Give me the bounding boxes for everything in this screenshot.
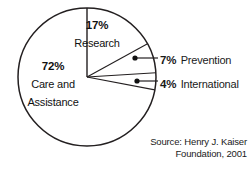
slice-name-research: Research	[74, 37, 119, 49]
slice-percent-international: 4%	[160, 78, 176, 90]
slice-percent-research: 17%	[86, 19, 108, 31]
source-note: Source: Henry J. Kaiser Foundation, 2001	[131, 136, 247, 160]
slice-label-international: 4% International	[160, 75, 239, 91]
marker-dot-international	[134, 78, 139, 83]
slice-name-prevention: Prevention	[181, 54, 232, 66]
slice-percent-care-and-assistance: 72%	[42, 60, 64, 72]
source-note-line1: Source: Henry J. Kaiser	[131, 136, 247, 148]
slice-name-care-and-assistance-line1: Care and	[31, 78, 75, 90]
marker-dot-prevention	[132, 55, 137, 60]
slice-label-research: 17% Research	[66, 15, 128, 51]
slice-label-care-and-assistance: 72% Care and Assistance	[16, 56, 90, 110]
slice-label-prevention: 7% Prevention	[160, 51, 231, 67]
slice-name-care-and-assistance-line2: Assistance	[27, 96, 78, 108]
slice-percent-prevention: 7%	[160, 54, 176, 66]
slice-name-international: International	[181, 78, 239, 90]
pie-chart: 17% Research 72% Care and Assistance 7% …	[0, 0, 251, 170]
source-note-line2: Foundation, 2001	[131, 148, 247, 160]
